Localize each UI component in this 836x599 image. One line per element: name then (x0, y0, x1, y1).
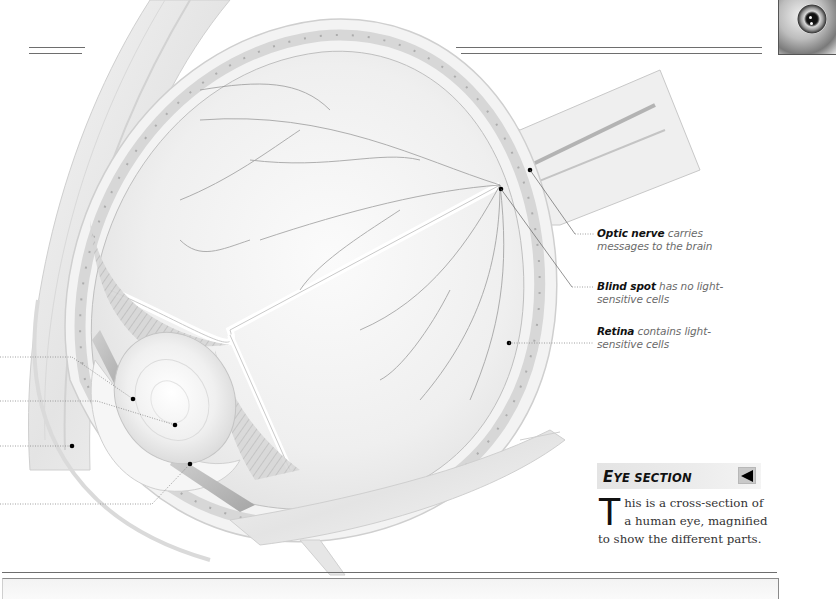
title-initial: E (603, 468, 613, 486)
label-blind-spot: Blind spot has no light- sensitive cells (597, 280, 723, 306)
label-term: Retina (597, 325, 634, 337)
footer-panel (2, 578, 779, 599)
label-text-line2: sensitive cells (597, 293, 669, 305)
left-triangle-icon (741, 470, 753, 482)
label-retina: Retina contains light- sensitive cells (597, 325, 711, 351)
label-text: contains light- (634, 325, 711, 337)
section-title: EYE SECTION (603, 468, 692, 486)
label-optic-nerve: Optic nerve carries messages to the brai… (597, 227, 712, 253)
back-arrow-button[interactable] (738, 467, 756, 484)
title-rest: YE (613, 471, 634, 485)
section-description: This is a cross-section of a human eye, … (598, 494, 768, 548)
label-text-line2: messages to the brain (597, 240, 712, 252)
section-heading-bar: EYE SECTION (597, 463, 761, 489)
label-text-line2: sensitive cells (597, 338, 669, 350)
label-term: Optic nerve (597, 227, 665, 239)
drop-cap: T (598, 495, 621, 529)
label-term: Blind spot (597, 280, 656, 292)
label-text: has no light- (656, 280, 723, 292)
footer-rule (2, 572, 777, 573)
description-text: his is a cross-section of a human eye, m… (598, 496, 767, 546)
label-text: carries (665, 227, 703, 239)
title-rest: SECTION (634, 471, 692, 485)
